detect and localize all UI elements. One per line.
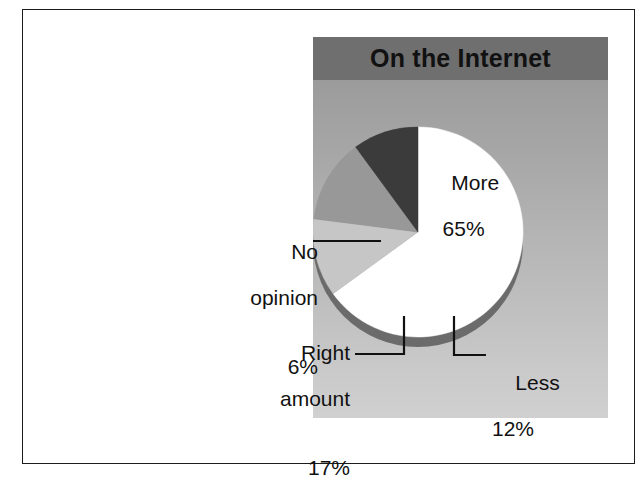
- pie-label-right-amount-value: 17%: [236, 456, 350, 479]
- pie-label-more-name: More: [451, 171, 499, 194]
- pie-label-less-value: 12%: [492, 417, 560, 440]
- pie-label-more: More 65%: [428, 148, 499, 286]
- pie-label-right-amount: Right amount 17%: [236, 318, 350, 479]
- pie-label-no-opinion-line1: No: [291, 240, 318, 263]
- pie-label-right-amount-line1: Right: [301, 341, 350, 364]
- chart-title: On the Internet: [370, 46, 551, 71]
- pie-label-less-name: Less: [515, 371, 559, 394]
- pie-label-right-amount-line2: amount: [236, 387, 350, 410]
- pie-label-more-value: 65%: [428, 217, 499, 240]
- pie-label-less: Less 12%: [492, 348, 560, 479]
- pie-label-no-opinion-line2: opinion: [222, 286, 318, 309]
- chart-title-band: On the Internet: [313, 37, 608, 80]
